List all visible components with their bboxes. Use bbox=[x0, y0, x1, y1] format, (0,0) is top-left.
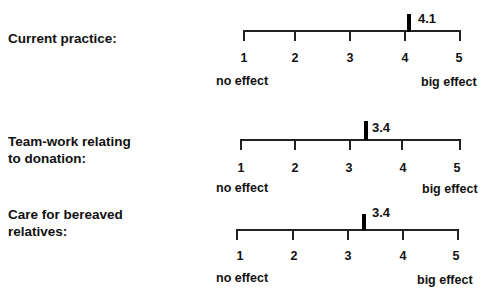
item-label: Current practice: bbox=[8, 30, 117, 47]
tick-label: 1 bbox=[230, 249, 250, 263]
tick-5 bbox=[459, 30, 461, 41]
tick-4 bbox=[402, 229, 404, 240]
tick-4 bbox=[404, 30, 406, 41]
tick-label: 5 bbox=[446, 249, 466, 263]
tick-label: 4 bbox=[395, 51, 415, 65]
tick-1 bbox=[236, 229, 238, 240]
tick-label: 3 bbox=[339, 161, 359, 175]
anchor-low: no effect bbox=[216, 181, 268, 195]
tick-label: 2 bbox=[285, 161, 305, 175]
value-label: 4.1 bbox=[418, 11, 436, 26]
item-label-line: Care for bereaved bbox=[8, 206, 123, 223]
tick-2 bbox=[292, 229, 294, 240]
tick-4 bbox=[401, 139, 403, 150]
tick-label: 5 bbox=[447, 161, 467, 175]
tick-label: 5 bbox=[449, 51, 469, 65]
tick-2 bbox=[294, 30, 296, 41]
scale-line bbox=[243, 30, 461, 32]
tick-label: 1 bbox=[231, 161, 251, 175]
anchor-low: no effect bbox=[216, 271, 268, 285]
value-marker bbox=[407, 14, 411, 32]
item-label: Team-work relating to donation: bbox=[8, 133, 131, 167]
tick-label: 2 bbox=[285, 51, 305, 65]
value-label: 3.4 bbox=[372, 120, 390, 135]
tick-label: 1 bbox=[234, 51, 254, 65]
anchor-high: big effect bbox=[421, 75, 477, 89]
tick-2 bbox=[294, 139, 296, 150]
tick-label: 4 bbox=[393, 161, 413, 175]
item-label-line: Current practice: bbox=[8, 31, 117, 46]
item-label-line: relatives: bbox=[8, 223, 123, 240]
tick-label: 3 bbox=[340, 51, 360, 65]
item-label: Care for bereaved relatives: bbox=[8, 206, 123, 240]
value-marker bbox=[362, 214, 366, 230]
tick-5 bbox=[457, 229, 459, 240]
tick-1 bbox=[243, 30, 245, 41]
tick-label: 2 bbox=[284, 249, 304, 263]
anchor-low: no effect bbox=[216, 74, 268, 88]
tick-5 bbox=[459, 139, 461, 150]
value-label: 3.4 bbox=[372, 205, 390, 220]
anchor-high: big effect bbox=[422, 182, 478, 196]
tick-3 bbox=[349, 139, 351, 150]
tick-3 bbox=[347, 229, 349, 240]
tick-1 bbox=[240, 139, 242, 150]
anchor-high: big effect bbox=[417, 273, 473, 287]
tick-3 bbox=[349, 30, 351, 41]
value-marker bbox=[364, 121, 368, 140]
tick-label: 4 bbox=[393, 249, 413, 263]
tick-label: 3 bbox=[338, 249, 358, 263]
item-label-line: to donation: bbox=[8, 150, 131, 167]
item-label-line: Team-work relating bbox=[8, 133, 131, 150]
